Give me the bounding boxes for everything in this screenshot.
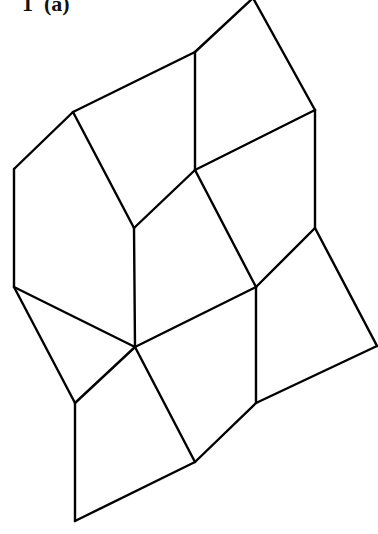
- edge-NO: [195, 403, 256, 462]
- edge-AB: [195, 0, 253, 52]
- edge-IJ: [14, 287, 135, 347]
- edge-HK: [256, 228, 315, 287]
- edge-AE: [253, 0, 315, 110]
- edge-FG: [134, 170, 195, 228]
- edge-OP: [75, 462, 195, 521]
- edge-LN: [256, 346, 377, 403]
- edge-CD: [14, 112, 73, 169]
- tiling-diagram: [0, 0, 378, 534]
- edge-JM: [75, 347, 135, 403]
- edge-EF: [195, 110, 315, 170]
- edge-JO: [135, 347, 195, 462]
- edge-JK: [135, 287, 256, 347]
- edge-CG: [73, 112, 134, 228]
- edge-GJ: [134, 228, 135, 347]
- edge-FK: [195, 170, 256, 287]
- edge-HL: [315, 228, 377, 346]
- edge-IM: [14, 287, 75, 403]
- edge-BC: [73, 52, 195, 112]
